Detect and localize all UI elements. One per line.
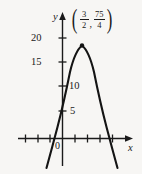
y-axis-label: y bbox=[53, 12, 58, 23]
parabola-figure: 20 15 10 5 0 y x ( 3 2 , 75 4 ) bbox=[0, 0, 142, 174]
y-tick-label-10: 10 bbox=[69, 81, 80, 92]
y-axis bbox=[59, 12, 66, 166]
x-coordinate-fraction: 3 2 bbox=[79, 10, 89, 29]
close-paren: ) bbox=[107, 9, 113, 30]
y-denominator: 4 bbox=[96, 21, 102, 30]
open-paren: ( bbox=[72, 9, 78, 30]
vertex-point-marker bbox=[80, 43, 84, 47]
y-tick-label-5: 5 bbox=[70, 106, 75, 117]
vertex-coordinate-annotation: ( 3 2 , 75 4 ) bbox=[70, 9, 114, 30]
y-coordinate-fraction: 75 4 bbox=[94, 10, 106, 29]
origin-label: 0 bbox=[55, 141, 60, 151]
y-tick-label-15: 15 bbox=[31, 57, 42, 68]
x-axis-label: x bbox=[128, 143, 133, 154]
y-tick-label-20: 20 bbox=[31, 33, 42, 44]
x-numerator: 3 bbox=[81, 10, 87, 19]
y-numerator: 75 bbox=[94, 10, 105, 19]
x-denominator: 2 bbox=[81, 21, 87, 30]
